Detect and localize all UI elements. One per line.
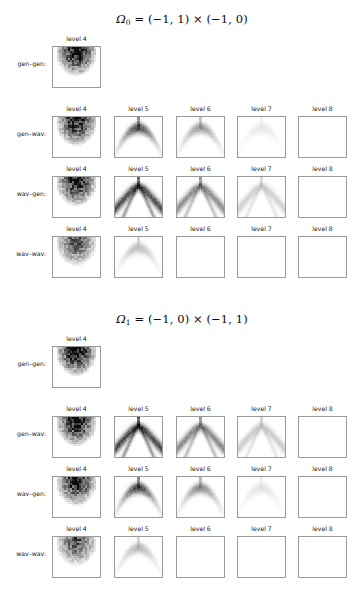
panel-row-wavgen: wav–gen:level 4level 5level 6level 7leve…: [0, 164, 364, 220]
heatmap-panel: [114, 236, 163, 278]
heatmap-canvas: [53, 417, 100, 457]
heatmap-canvas: [53, 537, 100, 577]
heatmap-canvas: [53, 237, 100, 277]
heatmap-panel: [237, 536, 286, 578]
heatmap-panel: [114, 416, 163, 458]
panel-block-omega0: Ω0 = (−1, 1) × (−1, 0)gen–gen:level 4gen…: [0, 12, 364, 302]
panel-column-label: level 4: [52, 464, 101, 473]
row-label: wav–gen:: [0, 190, 46, 198]
heatmap-panel: [298, 416, 347, 458]
heatmap-canvas: [238, 537, 285, 577]
panel-column-label: level 4: [52, 104, 101, 113]
heatmap-canvas: [177, 237, 224, 277]
panel-column-label: level 7: [237, 164, 286, 173]
panel-column-label: level 6: [176, 104, 225, 113]
heatmap-canvas: [299, 417, 346, 457]
panel-column-label: level 4: [52, 224, 101, 233]
panel-column-label: level 6: [176, 524, 225, 533]
block-title-equals: =: [134, 312, 144, 326]
panel-column-label: level 8: [298, 464, 347, 473]
panel-column-label: level 6: [176, 164, 225, 173]
block-title-symbol: Ω1: [116, 312, 131, 326]
heatmap-canvas: [177, 177, 224, 217]
panel-column-label: level 7: [237, 104, 286, 113]
heatmap-canvas: [177, 537, 224, 577]
heatmap-canvas: [238, 237, 285, 277]
heatmap-canvas: [53, 477, 100, 517]
panel-column-label: level 5: [114, 464, 163, 473]
panel-column-label: level 5: [114, 164, 163, 173]
heatmap-panel: [52, 536, 101, 578]
row-label: wav–wav:: [0, 250, 46, 258]
block-title-omega1: Ω1 = (−1, 0) × (−1, 1): [0, 312, 364, 326]
block-title-symbol: Ω0: [116, 12, 131, 26]
block-title-subscript: 1: [126, 318, 131, 327]
heatmap-panel: [114, 476, 163, 518]
heatmap-canvas: [53, 117, 100, 157]
heatmap-canvas: [238, 177, 285, 217]
panel-row-wavwav: wav–wav:level 4level 5level 6level 7leve…: [0, 524, 364, 580]
heatmap-canvas: [238, 477, 285, 517]
heatmap-canvas: [299, 117, 346, 157]
block-title-interval-y: (−1, 1): [207, 312, 248, 326]
panel-column-label: level 8: [298, 404, 347, 413]
heatmap-canvas: [299, 537, 346, 577]
row-label: wav–wav:: [0, 550, 46, 558]
heatmap-panel: [176, 536, 225, 578]
heatmap-panel: [176, 116, 225, 158]
heatmap-canvas: [115, 177, 162, 217]
heatmap-canvas: [53, 47, 100, 87]
block-title-times: ×: [193, 312, 203, 326]
panel-column-label: level 4: [52, 164, 101, 173]
panel-block-omega1: Ω1 = (−1, 0) × (−1, 1)gen–gen:level 4gen…: [0, 312, 364, 602]
heatmap-panel: [114, 116, 163, 158]
heatmap-panel: [298, 236, 347, 278]
heatmap-panel: [52, 116, 101, 158]
panel-column-label: level 7: [237, 524, 286, 533]
heatmap-canvas: [115, 237, 162, 277]
panel-row-gengen: gen–gen:level 4: [0, 34, 364, 90]
heatmap-panel: [52, 46, 101, 88]
panel-column-label: level 8: [298, 224, 347, 233]
heatmap-panel: [237, 116, 286, 158]
heatmap-canvas: [115, 417, 162, 457]
heatmap-panel: [237, 236, 286, 278]
panel-column-label: level 4: [52, 334, 101, 343]
panel-column-label: level 7: [237, 464, 286, 473]
panel-column-label: level 4: [52, 524, 101, 533]
row-label: gen–wav:: [0, 430, 46, 438]
heatmap-panel: [298, 476, 347, 518]
heatmap-panel: [52, 236, 101, 278]
heatmap-canvas: [115, 537, 162, 577]
heatmap-canvas: [115, 477, 162, 517]
heatmap-canvas: [177, 117, 224, 157]
panel-row-gengen: gen–gen:level 4: [0, 334, 364, 390]
heatmap-panel: [176, 476, 225, 518]
heatmap-canvas: [238, 417, 285, 457]
heatmap-canvas: [177, 417, 224, 457]
panel-column-label: level 6: [176, 404, 225, 413]
heatmap-panel: [176, 236, 225, 278]
heatmap-panel: [52, 416, 101, 458]
heatmap-canvas: [177, 477, 224, 517]
heatmap-canvas: [53, 347, 100, 387]
heatmap-panel: [237, 476, 286, 518]
panel-column-label: level 4: [52, 404, 101, 413]
heatmap-panel: [237, 416, 286, 458]
block-title-interval-y: (−1, 0): [207, 12, 248, 26]
panel-row-genwav: gen–wav:level 4level 5level 6level 7leve…: [0, 404, 364, 460]
panel-column-label: level 8: [298, 104, 347, 113]
panel-column-label: level 5: [114, 104, 163, 113]
row-label: wav–gen:: [0, 490, 46, 498]
heatmap-canvas: [299, 477, 346, 517]
panel-column-label: level 7: [237, 224, 286, 233]
heatmap-panel: [114, 536, 163, 578]
block-title-interval-x: (−1, 0): [148, 312, 189, 326]
heatmap-panel: [176, 416, 225, 458]
row-label: gen–gen:: [0, 360, 46, 368]
panel-column-label: level 6: [176, 464, 225, 473]
heatmap-canvas: [115, 117, 162, 157]
row-label: gen–wav:: [0, 130, 46, 138]
panel-column-label: level 7: [237, 404, 286, 413]
panel-column-label: level 8: [298, 524, 347, 533]
